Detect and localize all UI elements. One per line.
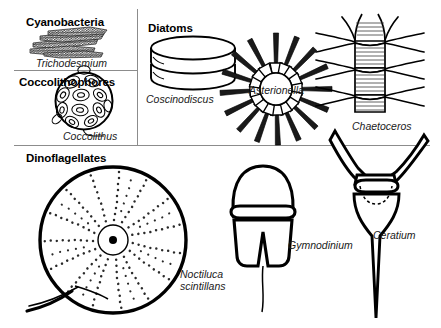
genus-label-coccolithus: Coccolithus [63,130,117,142]
group-heading-diatoms: Diatoms [148,22,193,34]
group-heading-coccolithophores: Coccolithophores [19,76,115,88]
noctiluca-nucleus [109,236,117,244]
genus-label-noctiluca-line1: Noctiluca [180,268,223,280]
genus-label-noctiluca: Noctilucascintillans [180,269,250,293]
chaetoceros-cells [355,14,385,112]
noctiluca-drawing [27,167,186,313]
trichodesmium-drawing [30,27,107,58]
ceratium-drawing [330,131,428,318]
coscinodiscus-drawing [151,37,235,90]
genus-label-noctiluca-line2: scintillans [180,280,226,292]
chaetoceros-drawing [316,14,424,112]
genus-label-trichodesmium: Trichodesmium [36,57,107,69]
genus-label-asterionella: Asterionella [249,84,304,96]
genus-label-ceratium: Ceratium [373,229,416,241]
group-heading-dinoflagellates: Dinoflagellates [26,152,106,164]
gymnodinium-flagellum [262,266,263,312]
genus-label-chaetoceros: Chaetoceros [352,120,412,132]
genus-label-coscinodiscus: Coscinodiscus [146,93,214,105]
plankton-figure: Cyanobacteria Trichodesmium Coccolithoph… [0,0,441,328]
genus-label-gymnodinium: Gymnodinium [288,239,353,251]
group-heading-cyanobacteria: Cyanobacteria [26,16,104,28]
